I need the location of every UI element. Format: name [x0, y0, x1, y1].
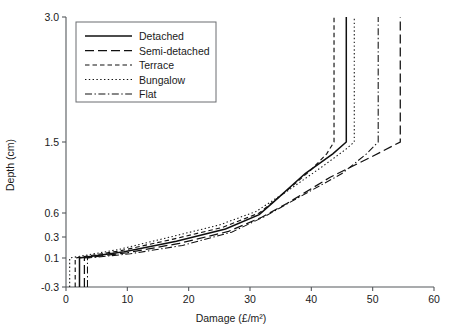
legend-label-flat: Flat: [139, 88, 157, 100]
legend-label-detached: Detached: [139, 30, 184, 42]
y-tick-label: -0.3: [41, 281, 59, 293]
chart-figure: 01020304050603.01.50.60.30.1-0.3 Detache…: [0, 0, 452, 335]
x-tick-label: 30: [244, 293, 256, 305]
y-tick-label: 0.1: [44, 252, 59, 264]
legend-label-semi-detached: Semi-detached: [139, 45, 210, 57]
x-tick-label: 20: [183, 293, 195, 305]
legend-label-bungalow: Bungalow: [139, 74, 186, 86]
legend-label-terrace: Terrace: [139, 59, 174, 71]
x-tick-label: 50: [367, 293, 379, 305]
y-axis-title: Depth (cm): [4, 139, 16, 191]
chart-legend: DetachedSemi-detachedTerraceBungalowFlat: [76, 22, 216, 102]
depth-damage-line-chart: 01020304050603.01.50.60.30.1-0.3 Detache…: [0, 0, 452, 335]
x-tick-label: 40: [305, 293, 317, 305]
y-tick-label: 0.3: [44, 231, 59, 243]
y-tick-label: 3.0: [44, 11, 59, 23]
y-tick-label: 1.5: [44, 136, 59, 148]
y-tick-label: 0.6: [44, 207, 59, 219]
x-tick-label: 0: [63, 293, 69, 305]
x-axis-title: Damage (£/m²): [196, 312, 267, 324]
x-tick-label: 10: [121, 293, 133, 305]
x-tick-label: 60: [428, 293, 440, 305]
